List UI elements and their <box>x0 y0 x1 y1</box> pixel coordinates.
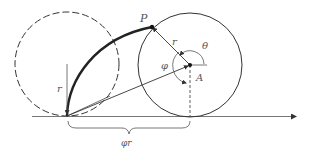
label-r-vertical: r <box>57 83 63 94</box>
contact-to-center-arrow <box>67 66 188 116</box>
label-r-to-p: r <box>172 36 178 47</box>
point-p-dot <box>150 25 154 29</box>
label-p: P <box>139 12 148 25</box>
center-a-dot <box>188 63 192 67</box>
label-theta: θ <box>202 40 208 51</box>
label-phi-r: φr <box>121 138 132 148</box>
theta-angle-arc <box>180 51 204 64</box>
arc-length-brace <box>68 121 190 134</box>
cycloid-curve <box>67 27 152 116</box>
label-phi: φ <box>161 60 168 71</box>
contact-to-p-chord <box>67 96 110 116</box>
cycloid-diagram: P A r r θ φ φr <box>0 0 309 153</box>
label-a: A <box>195 72 203 83</box>
